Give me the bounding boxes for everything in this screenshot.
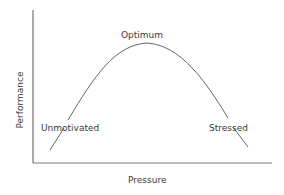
performance-curve <box>68 43 228 120</box>
y-axis-label: Performance <box>16 71 25 128</box>
label-unmotivated: Unmotivated <box>41 124 99 133</box>
label-stressed: Stressed <box>209 124 248 133</box>
inverted-u-diagram: Optimum Unmotivated Stressed Pressure Pe… <box>0 0 284 195</box>
x-axis-label: Pressure <box>128 176 166 185</box>
label-optimum: Optimum <box>121 31 163 40</box>
